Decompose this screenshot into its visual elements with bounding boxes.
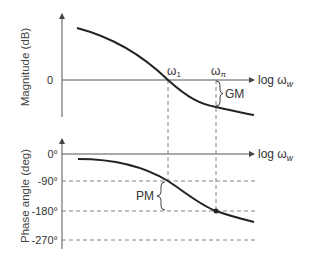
- zero-db-tick: 0: [47, 74, 53, 86]
- gm-brace: [216, 81, 223, 106]
- tick-minus-270-deg: -270°: [32, 234, 58, 246]
- magnitude-curve: [77, 28, 254, 115]
- phase-crossover-point: [214, 209, 219, 214]
- bode-diagram: Magnitude (dB) 0 log ωw ω1 ωπ GM Ph: [0, 0, 309, 260]
- pm-label: PM: [136, 189, 154, 203]
- pm-brace: [157, 182, 165, 210]
- gm-label: GM: [225, 87, 244, 101]
- phase-x-label: log ωw: [258, 147, 294, 163]
- tick-0-deg: 0°: [47, 148, 58, 160]
- magnitude-y-label: Magnitude (dB): [19, 28, 31, 107]
- magnitude-x-label: log ωw: [258, 73, 294, 89]
- phase-y-label: Phase angle (deg): [19, 149, 31, 243]
- omega1-label: ω1: [167, 64, 181, 79]
- phase-curve: [78, 159, 254, 222]
- phase-plot: Phase angle (deg) 0° -90° -180° -270° lo…: [19, 139, 294, 249]
- tick-minus-180-deg: -180°: [32, 205, 58, 217]
- tick-minus-90-deg: -90°: [38, 175, 58, 187]
- omega-pi-label: ωπ: [211, 64, 226, 79]
